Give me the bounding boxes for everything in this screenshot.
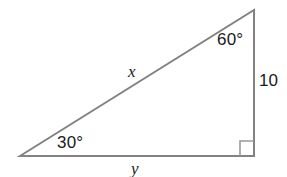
triangle-svg xyxy=(0,0,287,177)
triangle-diagram: 60° 30° 10 x y xyxy=(0,0,287,177)
angle-label-top-right: 60° xyxy=(217,31,243,48)
side-label-bottom-leg: y xyxy=(131,160,139,177)
right-angle-icon xyxy=(240,141,254,156)
side-label-right-leg: 10 xyxy=(259,72,278,89)
side-label-hypotenuse: x xyxy=(128,63,136,80)
angle-label-bottom-left: 30° xyxy=(57,134,83,151)
